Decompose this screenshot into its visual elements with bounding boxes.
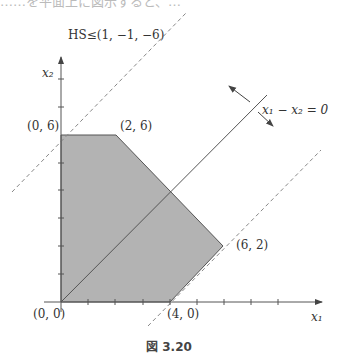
vertex-label-0-0: (0, 0) <box>33 307 65 321</box>
vertex-label-6-2: (6, 2) <box>236 238 268 252</box>
axis-y-label: x₂ <box>42 66 54 80</box>
figure-caption: 図 3.20 <box>0 337 338 354</box>
halfspace-label: HS≤(1, −1, −6) <box>68 28 164 42</box>
vertex-label-0-6: (0, 6) <box>27 119 59 133</box>
vertex-label-4-0: (4, 0) <box>167 307 199 321</box>
vertex-label-2-6: (2, 6) <box>120 119 152 133</box>
axis-x-label: x₁ <box>311 310 323 324</box>
line-label: x₁ − x₂ = 0 <box>262 103 328 117</box>
arrow-up-left-icon <box>229 86 250 102</box>
